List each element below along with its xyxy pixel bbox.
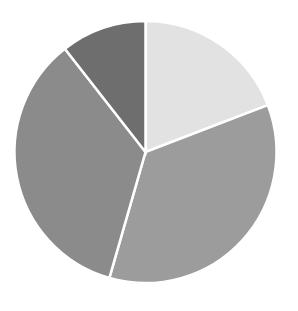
pie-chart-figure [0, 0, 298, 311]
pie-chart-canvas [0, 0, 298, 311]
pie-slices-group [14, 21, 276, 283]
